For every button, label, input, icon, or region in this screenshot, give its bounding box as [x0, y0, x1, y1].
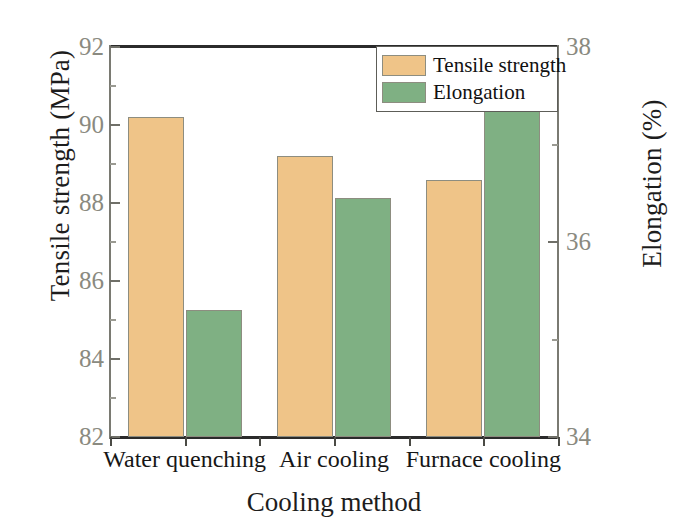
left-tick-major [110, 202, 120, 204]
left-tick-major [110, 280, 120, 282]
bar-tensile-strength [426, 180, 482, 437]
x-tick-major [558, 437, 560, 446]
bar-tensile-strength [128, 117, 184, 437]
x-tick-major [334, 437, 336, 446]
right-tick-label: 36 [566, 229, 626, 254]
left-tick-minor [110, 319, 116, 321]
x-tick-major [483, 437, 485, 446]
right-tick-label: 38 [566, 34, 626, 59]
x-tick-major [110, 437, 112, 446]
right-tick-minor [552, 339, 558, 341]
legend: Tensile strength Elongation [376, 46, 558, 112]
bar-tensile-strength [277, 156, 333, 437]
legend-swatch-tensile-strength [382, 55, 426, 76]
legend-swatch-elongation [382, 82, 426, 103]
left-tick-major [110, 358, 120, 360]
left-tick-major [110, 46, 120, 48]
left-tick-major [110, 124, 120, 126]
x-tick-major [409, 437, 411, 446]
bar-elongation [186, 310, 242, 437]
left-tick-minor [110, 85, 116, 87]
x-tick-major [259, 437, 261, 446]
bar-chart-figure: 828486889092 343638 Water quenchingAir c… [0, 0, 674, 526]
x-category-label: Furnace cooling [373, 446, 593, 473]
right-tick-major [548, 241, 558, 243]
right-tick-minor [552, 144, 558, 146]
bar-elongation [335, 198, 391, 437]
left-tick-minor [110, 163, 116, 165]
legend-label-elongation: Elongation [433, 82, 525, 103]
legend-label-tensile-strength: Tensile strength [433, 55, 566, 76]
legend-item-tensile-strength[interactable]: Tensile strength [382, 52, 551, 79]
right-axis-title: Elongation (%) [637, 0, 668, 384]
left-tick-minor [110, 397, 116, 399]
legend-item-elongation[interactable]: Elongation [382, 79, 551, 106]
x-axis-title: Cooling method [110, 487, 558, 518]
left-axis-title: Tensile strength (MPa) [45, 0, 76, 386]
x-tick-major [185, 437, 187, 446]
right-tick-major [548, 436, 558, 438]
left-tick-minor [110, 241, 116, 243]
